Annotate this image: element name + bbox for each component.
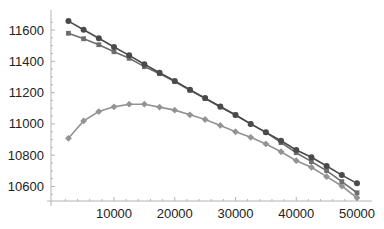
y-tick-label: 11600	[9, 23, 44, 38]
x-tick-label: 50000	[339, 206, 375, 221]
data-point-circle	[308, 154, 314, 160]
series-circle	[65, 18, 360, 186]
y-tick-label: 11400	[9, 54, 44, 69]
y-tick-label: 11000	[9, 116, 44, 131]
data-point-circle	[263, 129, 269, 135]
y-tick-label: 10600	[8, 179, 44, 194]
data-point-square	[339, 179, 344, 184]
data-point-circle	[187, 87, 193, 93]
y-tick-label: 10800	[8, 148, 44, 163]
y-tick-label: 11200	[9, 85, 44, 100]
data-point-square	[96, 42, 101, 47]
x-tick-label: 30000	[217, 206, 253, 221]
line-chart: 106001080011000112001140011600 100002000…	[0, 0, 384, 229]
data-point-square	[112, 49, 117, 54]
data-point-circle	[172, 78, 178, 84]
data-point-diamond	[202, 116, 209, 123]
data-point-square	[66, 31, 71, 36]
data-point-circle	[65, 18, 71, 24]
data-point-circle	[354, 180, 360, 186]
data-point-diamond	[126, 101, 133, 108]
series-diamond-line	[68, 104, 357, 198]
data-point-diamond	[293, 157, 300, 164]
data-point-diamond	[171, 107, 178, 114]
data-point-circle	[81, 27, 87, 33]
data-point-diamond	[217, 122, 224, 129]
data-point-circle	[126, 52, 132, 58]
axes	[47, 10, 372, 206]
data-point-circle	[324, 163, 330, 169]
series-layer	[65, 18, 360, 201]
x-axis-tick-labels: 1000020000300004000050000	[96, 206, 375, 221]
data-point-diamond	[141, 101, 148, 108]
data-point-circle	[248, 121, 254, 127]
data-point-square	[324, 168, 329, 173]
data-point-circle	[339, 172, 345, 178]
data-point-circle	[111, 44, 117, 50]
data-point-circle	[96, 35, 102, 41]
data-point-circle	[293, 147, 299, 153]
data-point-diamond	[262, 141, 269, 148]
data-point-circle	[217, 104, 223, 110]
data-point-square	[355, 190, 360, 195]
data-point-diamond	[111, 103, 118, 110]
y-axis-tick-labels: 106001080011000112001140011600	[8, 23, 44, 195]
x-tick-label: 40000	[278, 206, 314, 221]
data-point-diamond	[187, 111, 194, 118]
data-point-circle	[141, 61, 147, 67]
data-point-circle	[233, 112, 239, 118]
x-tick-label: 10000	[96, 206, 132, 221]
series-diamond	[65, 101, 360, 201]
data-point-diamond	[247, 134, 254, 141]
data-point-diamond	[232, 128, 239, 135]
data-point-diamond	[278, 148, 285, 155]
data-point-circle	[157, 70, 163, 76]
x-tick-label: 20000	[157, 206, 193, 221]
data-point-square	[81, 36, 86, 41]
data-point-diamond	[156, 104, 163, 111]
data-point-circle	[202, 95, 208, 101]
data-point-circle	[278, 138, 284, 144]
